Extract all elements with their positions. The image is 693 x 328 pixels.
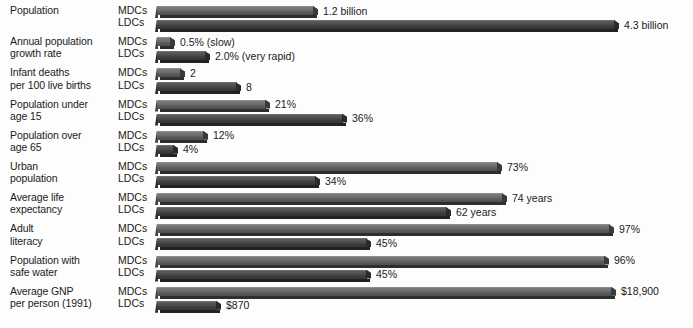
bar-bottom-face	[160, 202, 506, 205]
series-name-ldc: LDCs	[118, 235, 154, 247]
bar-value-label: 2	[190, 68, 196, 79]
bar-end-cap	[315, 176, 320, 185]
bar-value-label: 74 years	[512, 193, 552, 204]
bar-value-label: 96%	[614, 255, 635, 266]
bar-bottom-face	[160, 60, 209, 63]
chart-row-group: PopulationMDCsLDCs1.2 billion4.3 billion	[0, 4, 693, 35]
bar-ldc	[157, 176, 316, 185]
series-name-column: MDCsLDCs	[118, 129, 154, 153]
bar-value-label: 12%	[213, 130, 234, 141]
category-label-line: Annual population	[10, 35, 114, 47]
category-label: Population underage 15	[10, 98, 114, 122]
series-name-column: MDCsLDCs	[118, 4, 154, 28]
bar-ldc	[157, 145, 174, 154]
series-name-ldc: LDCs	[118, 172, 154, 184]
bar-mdc	[157, 256, 605, 265]
bar-value-label: 0.5% (slow)	[180, 37, 235, 48]
series-name-mdc: MDCs	[118, 254, 154, 266]
bar-value-label: 45%	[376, 238, 397, 249]
series-name-ldc: LDCs	[118, 16, 154, 28]
bar-front-face	[157, 270, 367, 279]
category-label-line: age 15	[10, 110, 114, 122]
bar-bottom-face	[160, 154, 177, 157]
bar-lane-ldc: $870	[157, 301, 287, 313]
bar-lane-ldc: 62 years	[157, 207, 517, 219]
category-label: Adultliteracy	[10, 222, 114, 246]
bar-bottom-face	[160, 91, 240, 94]
bar-end-cap	[609, 224, 614, 233]
chart-row-group: Population underage 15MDCsLDCs21%36%	[0, 98, 693, 129]
bar-lane-ldc: 8	[157, 82, 307, 94]
comparison-bar-chart: PopulationMDCsLDCs1.2 billion4.3 billion…	[0, 0, 693, 328]
bar-lane-mdc: 74 years	[157, 193, 573, 205]
bar-front-face	[157, 145, 174, 154]
bar-mdc	[157, 193, 503, 202]
series-name-ldc: LDCs	[118, 79, 154, 91]
bar-bottom-face	[160, 77, 184, 80]
bar-front-face	[157, 224, 610, 233]
series-name-column: MDCsLDCs	[118, 98, 154, 122]
bar-mdc	[157, 68, 181, 77]
bar-front-face	[157, 20, 615, 29]
series-name-mdc: MDCs	[118, 160, 154, 172]
category-label-line: Population over	[10, 129, 114, 141]
bar-value-label: 36%	[352, 113, 373, 124]
category-label-line: expectancy	[10, 203, 114, 215]
bar-bottom-face	[160, 123, 346, 126]
bar-lane-mdc: $18,900	[157, 287, 682, 299]
bar-end-cap	[497, 162, 502, 171]
bar-value-label: $870	[226, 300, 249, 311]
bar-lane-ldc: 4.3 billion	[157, 20, 685, 32]
chart-row-group: AdultliteracyMDCsLDCs97%45%	[0, 222, 693, 253]
series-name-ldc: LDCs	[118, 297, 154, 309]
series-name-mdc: MDCs	[118, 191, 154, 203]
bar-end-cap	[611, 287, 616, 296]
series-name-column: MDCsLDCs	[118, 191, 154, 215]
bar-value-label: 45%	[376, 269, 397, 280]
series-name-column: MDCsLDCs	[118, 285, 154, 309]
bar-ldc	[157, 51, 206, 60]
bar-front-face	[157, 162, 498, 171]
bar-value-label: 1.2 billion	[323, 6, 367, 17]
bar-value-label: $18,900	[621, 286, 659, 297]
series-name-ldc: LDCs	[118, 141, 154, 153]
bar-front-face	[157, 131, 204, 140]
bar-lane-mdc: 2	[157, 68, 251, 80]
bar-mdc	[157, 6, 314, 15]
bar-front-face	[157, 82, 237, 91]
bar-value-label: 73%	[507, 162, 528, 173]
category-label-line: per 100 live births	[10, 79, 114, 91]
bar-bottom-face	[160, 46, 174, 49]
series-name-ldc: LDCs	[118, 110, 154, 122]
bar-ldc	[157, 301, 217, 310]
bar-mdc	[157, 224, 610, 233]
category-label: Average lifeexpectancy	[10, 191, 114, 215]
bar-mdc	[157, 100, 266, 109]
bar-end-cap	[236, 82, 241, 91]
chart-row-group: Population withsafe waterMDCsLDCs96%45%	[0, 254, 693, 285]
bar-bottom-face	[160, 109, 269, 112]
bar-value-label: 97%	[619, 224, 640, 235]
series-name-column: MDCsLDCs	[118, 222, 154, 246]
series-name-column: MDCsLDCs	[118, 254, 154, 278]
series-name-column: MDCsLDCs	[118, 35, 154, 59]
chart-row-group: Average GNPper person (1991)MDCsLDCs$18,…	[0, 285, 693, 316]
category-label-line: Average life	[10, 191, 114, 203]
chart-row-group: Annual populationgrowth rateMDCsLDCs0.5%…	[0, 35, 693, 66]
bar-front-face	[157, 6, 314, 15]
bar-bottom-face	[160, 171, 501, 174]
bar-front-face	[157, 68, 181, 77]
category-label: Population withsafe water	[10, 254, 114, 278]
bar-mdc	[157, 131, 204, 140]
bar-front-face	[157, 51, 206, 60]
bar-bottom-face	[160, 185, 319, 188]
bar-end-cap	[205, 51, 210, 60]
series-name-mdc: MDCs	[118, 222, 154, 234]
bar-front-face	[157, 207, 447, 216]
category-label: Population	[10, 4, 114, 16]
bar-lane-ldc: 36%	[157, 114, 413, 126]
category-label: Average GNPper person (1991)	[10, 285, 114, 309]
category-label: Population overage 65	[10, 129, 114, 153]
category-label-line: Population with	[10, 254, 114, 266]
series-name-column: MDCsLDCs	[118, 66, 154, 90]
